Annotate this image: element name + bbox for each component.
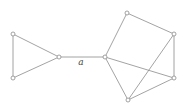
edge-C-T: [105, 13, 127, 57]
edge-B-LR: [128, 78, 174, 100]
edge-C-LR: [105, 57, 174, 78]
node-B: [126, 98, 130, 102]
node-T: [125, 11, 129, 15]
edge-C-B: [105, 57, 128, 100]
node-LR: [172, 76, 176, 80]
edge-L1-L3: [13, 34, 59, 57]
graph-nodes: [11, 11, 176, 102]
node-L3: [57, 55, 61, 59]
graph-diagram: a: [0, 0, 183, 110]
node-C: [103, 55, 107, 59]
edge-UR-B: [128, 34, 174, 100]
node-UR: [172, 32, 176, 36]
edge-T-UR: [127, 13, 174, 34]
edge-L2-L3: [13, 57, 59, 78]
node-L2: [11, 76, 15, 80]
graph-edges: [13, 13, 174, 100]
bridge-edge-label: a: [78, 57, 83, 67]
node-L1: [11, 32, 15, 36]
